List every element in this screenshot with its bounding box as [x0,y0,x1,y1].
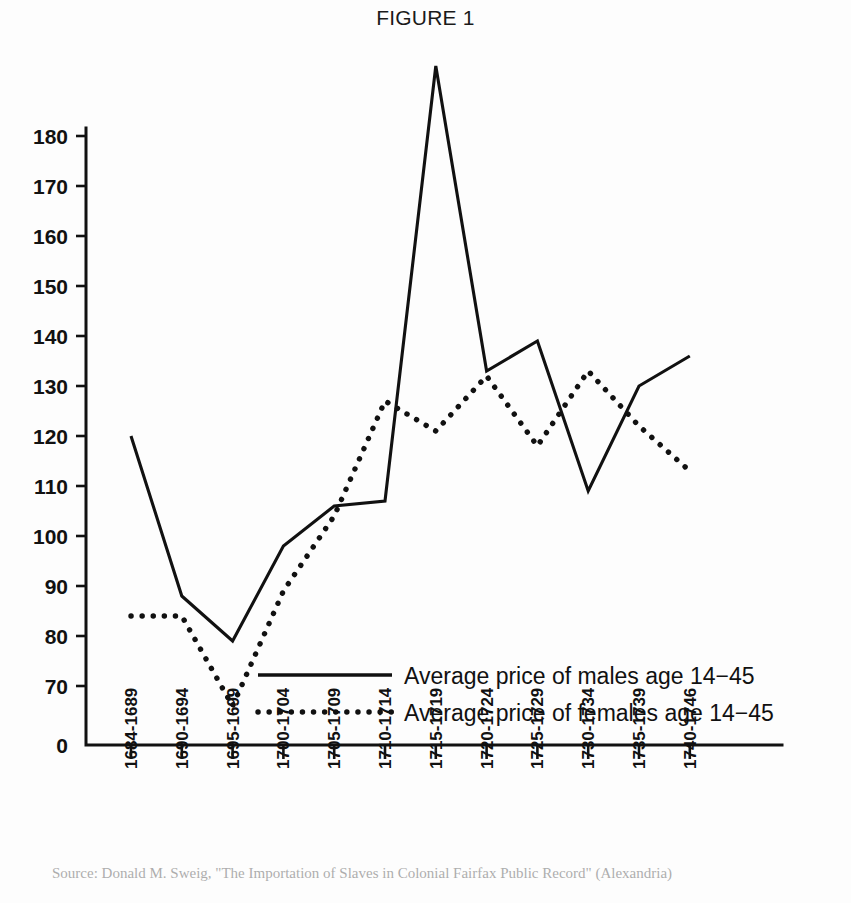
x-tick-label: 1695-1699 [224,688,243,769]
y-tick-label: 150 [33,275,68,298]
figure-container: FIGURE 1 180 170 160 150 140 130 [0,0,851,903]
y-origin-label: 0 [56,734,68,757]
source-caption: Source: Donald M. Sweig, "The Importatio… [52,865,822,882]
x-tick-label: 1690-1694 [173,687,192,769]
y-tick-label: 160 [33,225,68,248]
y-tick-label: 140 [33,325,68,348]
series-line-females [131,371,690,706]
x-tick-label: 1705-1709 [325,688,344,769]
y-tick-label: 100 [33,525,68,548]
caption-strip: Source: Donald M. Sweig, "The Importatio… [0,861,851,903]
series-line-males [131,66,690,641]
x-axis-ticks [131,745,690,759]
y-tick-label: 110 [34,475,68,498]
x-tick-label: 1700-1704 [274,687,293,769]
legend-label-females: Average price of females age 14−45 [404,700,774,726]
y-tick-label: 170 [33,175,68,198]
y-tick-label: 80 [45,625,68,648]
chart-axes [86,128,782,745]
y-axis-tick-labels: 180 170 160 150 140 130 120 110 100 90 8… [33,125,68,757]
x-tick-label: 1710-1714 [376,687,395,769]
x-tick-label: 1684-1689 [122,688,141,769]
y-tick-label: 120 [33,425,68,448]
y-tick-label: 70 [45,675,68,698]
y-tick-label: 90 [45,575,68,598]
legend-label-males: Average price of males age 14−45 [404,663,755,689]
y-tick-label: 130 [33,375,68,398]
line-chart: 180 170 160 150 140 130 120 110 100 90 8… [0,0,851,903]
y-tick-label: 180 [33,125,68,148]
